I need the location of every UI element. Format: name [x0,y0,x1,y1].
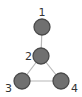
node-1-label: 1 [39,6,46,19]
node-2 [33,48,49,64]
node-3 [14,73,30,89]
node-3-label: 3 [5,82,12,95]
node-4 [53,73,69,89]
node-1 [34,19,50,35]
graph-diagram: 1 2 3 4 [0,0,82,97]
node-4-label: 4 [71,82,78,95]
node-2-label: 2 [25,50,32,63]
